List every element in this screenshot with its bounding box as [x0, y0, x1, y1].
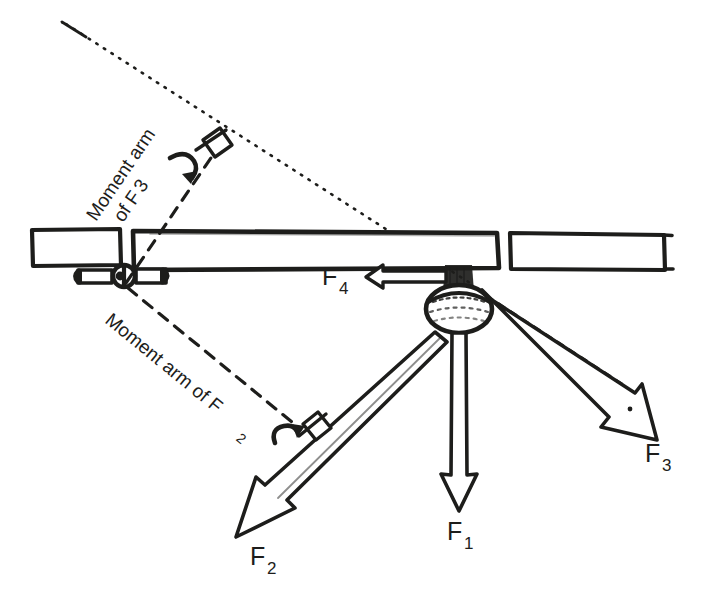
- right-angle-marker-upper: [196, 128, 232, 157]
- force-arrow-f1: [441, 333, 477, 511]
- force-label-f3: F 3: [645, 439, 671, 475]
- force-label-f2-symbol: F: [250, 542, 265, 570]
- force-label-f3-symbol: F: [645, 439, 660, 467]
- force-label-f1-subscript: 1: [464, 534, 473, 553]
- moment-arm-f2-text: Moment arm of F: [101, 309, 226, 417]
- moment-arm-f3-label: Moment arm of F 3: [82, 124, 178, 237]
- pivot-hinge: [73, 265, 170, 287]
- beam-main: [133, 231, 499, 270]
- moment-arm-f2-subscript: 2: [233, 430, 249, 447]
- force-arrow-f3: [482, 290, 657, 440]
- force-label-f1: F 1: [447, 517, 473, 553]
- moment-arm-diagram: Moment arm of F 3 Moment arm of F 2 F 4 …: [0, 0, 704, 594]
- beam-right-segment: [510, 233, 673, 270]
- force-arrow-f2: [236, 332, 447, 537]
- beam-left-segment: [32, 229, 121, 266]
- force-label-f2-subscript: 2: [267, 559, 276, 578]
- force-label-f4-subscript: 4: [339, 279, 348, 298]
- force-label-f4-symbol: F: [322, 262, 337, 290]
- force-label-f1-symbol: F: [447, 517, 462, 545]
- force-label-f3-subscript: 3: [662, 456, 671, 475]
- figure-root: Moment arm of F 3 Moment arm of F 2 F 4 …: [0, 0, 704, 594]
- force-label-f2: F 2: [250, 542, 276, 578]
- moment-arc-upper-icon: [170, 154, 197, 184]
